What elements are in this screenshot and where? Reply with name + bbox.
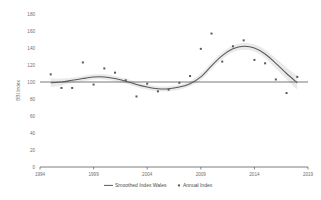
data-point — [157, 90, 159, 92]
chart-legend: Smoothed Index WalesAnnual Index — [104, 182, 213, 188]
y-axis-ticks: 020406080100120140160180 — [27, 12, 35, 170]
data-point — [71, 87, 73, 89]
data-point — [200, 48, 202, 50]
data-point — [93, 84, 95, 86]
data-point — [275, 78, 277, 80]
legend-label: Smoothed Index Wales — [115, 182, 167, 188]
data-point — [253, 59, 255, 61]
y-tick-label: 40 — [30, 131, 36, 136]
chart-container: 020406080100120140160180 199419992004200… — [0, 0, 321, 200]
y-tick-label: 20 — [30, 148, 36, 153]
y-axis-title: BBI Index — [16, 80, 21, 101]
data-point — [221, 61, 223, 63]
y-tick-label: 140 — [27, 46, 35, 51]
data-point — [60, 87, 62, 89]
x-axis: 199419992004200920142019 — [35, 167, 314, 177]
data-point — [189, 75, 191, 77]
data-point — [103, 67, 105, 69]
y-tick-label: 100 — [27, 80, 35, 85]
confidence-band-group — [51, 43, 298, 92]
x-tick-label: 2014 — [249, 172, 260, 177]
x-tick-label: 1999 — [88, 172, 99, 177]
y-tick-label: 80 — [30, 97, 36, 102]
data-point — [82, 61, 84, 63]
y-tick-label: 160 — [27, 29, 35, 34]
data-point — [211, 33, 213, 35]
data-point — [232, 45, 234, 47]
legend-label: Annual Index — [183, 182, 213, 188]
confidence-band — [51, 43, 298, 92]
y-tick-label: 0 — [32, 165, 35, 170]
data-point — [168, 89, 170, 91]
x-tick-label: 2019 — [303, 172, 314, 177]
data-point — [125, 79, 127, 81]
data-point — [146, 83, 148, 85]
bbi-index-chart: 020406080100120140160180 199419992004200… — [0, 0, 321, 200]
y-tick-label: 120 — [27, 63, 35, 68]
x-tick-label: 1994 — [35, 172, 46, 177]
data-point — [243, 39, 245, 41]
data-point — [286, 92, 288, 94]
data-point — [178, 82, 180, 84]
y-tick-label: 180 — [27, 12, 35, 17]
data-point — [50, 73, 52, 75]
legend-square-swatch — [178, 184, 180, 186]
x-tick-label: 2004 — [142, 172, 153, 177]
data-point — [264, 62, 266, 64]
data-point — [114, 72, 116, 74]
data-point — [135, 95, 137, 97]
data-point — [296, 76, 298, 78]
x-tick-label: 2009 — [196, 172, 207, 177]
y-tick-label: 60 — [30, 114, 36, 119]
